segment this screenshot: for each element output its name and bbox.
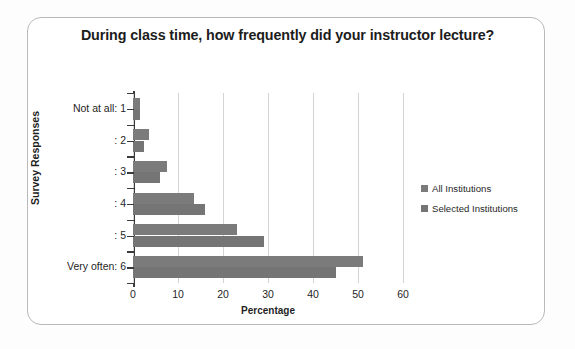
x-axis-tick-labels: 0102030405060 [133, 288, 403, 302]
bar [133, 267, 336, 278]
y-axis-tick-label: : 5 [114, 229, 126, 241]
bar [133, 141, 144, 152]
x-axis-tick-label: 50 [343, 288, 373, 300]
y-axis-tick [127, 267, 134, 268]
x-axis-tick-label: 40 [298, 288, 328, 300]
gridline [358, 93, 359, 283]
x-axis-tick-label: 0 [118, 288, 148, 300]
y-axis-tick [127, 236, 134, 237]
legend-label: All Institutions [432, 183, 491, 194]
x-axis-tick-label: 10 [163, 288, 193, 300]
y-axis-tick-label: : 3 [114, 165, 126, 177]
x-axis-tick-label: 30 [253, 288, 283, 300]
y-axis-tick-label: Not at all: 1 [73, 102, 126, 114]
bar [133, 236, 264, 247]
bar [133, 109, 140, 120]
gridline [403, 93, 404, 283]
bar [133, 172, 160, 183]
x-axis-title: Percentage [133, 305, 403, 316]
legend-item[interactable]: All Institutions [421, 183, 541, 194]
y-axis-minor-tick [127, 251, 134, 252]
chart-page: During class time, how frequently did yo… [0, 0, 575, 349]
legend-item[interactable]: Selected Institutions [421, 203, 541, 214]
legend-swatch-icon [421, 205, 428, 212]
legend-label: Selected Institutions [432, 203, 518, 214]
bar [133, 98, 140, 109]
gridline [268, 93, 269, 283]
y-axis-tick [127, 141, 134, 142]
y-axis-minor-tick [127, 156, 134, 157]
bar [133, 256, 363, 267]
bar [133, 204, 205, 215]
plot-area [133, 93, 403, 283]
chart-legend: All InstitutionsSelected Institutions [421, 183, 541, 223]
y-axis-tick [127, 204, 134, 205]
y-axis-tick [127, 109, 134, 110]
gridline [313, 93, 314, 283]
bar [133, 224, 237, 235]
x-axis-tick-label: 20 [208, 288, 238, 300]
y-axis-minor-tick [127, 125, 134, 126]
gridline [178, 93, 179, 283]
y-axis-minor-tick [127, 93, 134, 94]
gridline [223, 93, 224, 283]
y-axis-minor-tick [127, 283, 134, 284]
y-axis-minor-tick [127, 220, 134, 221]
y-axis-tick-label: : 4 [114, 197, 126, 209]
x-axis-tick-label: 60 [388, 288, 418, 300]
legend-swatch-icon [421, 185, 428, 192]
y-axis-minor-tick [127, 188, 134, 189]
y-axis-tick-labels: Not at all: 1: 2: 3: 4: 5Very often: 6 [30, 93, 126, 283]
y-axis-tick [127, 172, 134, 173]
bar [133, 161, 167, 172]
chart-title: During class time, how frequently did yo… [60, 26, 515, 45]
bar [133, 129, 149, 140]
y-axis-tick-label: : 2 [114, 134, 126, 146]
bar [133, 193, 194, 204]
y-axis-tick-label: Very often: 6 [67, 260, 126, 272]
